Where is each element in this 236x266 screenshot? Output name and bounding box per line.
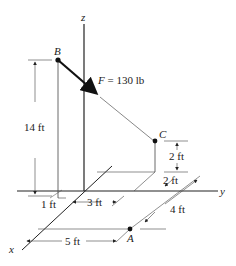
dim-14ft-label: 14 ft <box>24 121 44 133</box>
point-c <box>153 139 158 144</box>
dim-2ft-c-height-label: 2 ft <box>169 150 184 162</box>
point-b-label: B <box>54 45 61 57</box>
y-axis-label: y <box>219 185 225 197</box>
force-arrow <box>58 60 95 92</box>
dim-4ft-label: 4 ft <box>170 203 185 215</box>
force-diagram: z y x B C A F = 130 lb 14 ft 1 ft 3 ft 5… <box>0 0 236 266</box>
point-a <box>128 227 133 232</box>
dim-5ft-label: 5 ft <box>65 235 80 247</box>
force-label: F = 130 lb <box>97 74 145 86</box>
cable-bc <box>100 97 154 141</box>
dim-2ft-c-offset-label: 2 ft <box>163 174 178 186</box>
point-c-label: C <box>159 128 167 140</box>
dim-3ft-label: 3 ft <box>87 196 102 208</box>
point-b <box>55 57 60 62</box>
dim-1ft-label: 1 ft <box>41 198 56 210</box>
z-axis-label: z <box>80 11 86 23</box>
x-axis-label: x <box>8 243 14 255</box>
point-a-label: A <box>126 232 134 244</box>
